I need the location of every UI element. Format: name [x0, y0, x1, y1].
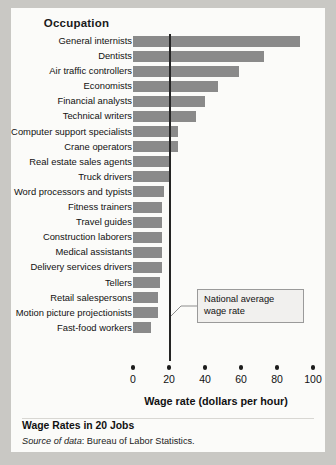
bar-category-label: Technical writers	[7, 109, 132, 123]
bar-category-label: Construction laborers	[7, 230, 132, 244]
bar	[133, 186, 164, 197]
source-prefix: Source of data	[22, 436, 82, 446]
bar	[133, 81, 218, 92]
bar-category-label: Air traffic controllers	[7, 64, 132, 78]
bar	[133, 36, 300, 47]
bar	[133, 202, 162, 213]
bar-row: Dentists	[11, 49, 325, 64]
callout-line-1: National average	[204, 294, 298, 306]
x-axis: 020406080100	[11, 365, 325, 399]
x-tick-label: 0	[113, 373, 153, 385]
x-tick-dot	[275, 365, 280, 370]
bar	[133, 277, 160, 288]
bar-category-label: Fitness trainers	[7, 200, 132, 214]
bar-row: Economists	[11, 79, 325, 94]
bar-category-label: Fast-food workers	[7, 321, 132, 335]
bar-category-label: Truck drivers	[7, 170, 132, 184]
bar-row: Crane operators	[11, 140, 325, 155]
bar-row: Fast-food workers	[11, 321, 325, 336]
bar-row: Real estate sales agents	[11, 155, 325, 170]
bar-category-label: Retail salespersons	[7, 291, 132, 305]
figure-card: Occupation General internistsDentistsAir…	[11, 8, 325, 452]
x-tick-dot	[311, 365, 316, 370]
bar	[133, 307, 158, 318]
bar	[133, 51, 264, 62]
bar-category-label: Dentists	[7, 49, 132, 63]
bar-row: General internists	[11, 34, 325, 49]
x-tick-label: 20	[149, 373, 189, 385]
x-tick-dot	[131, 365, 136, 370]
bar-row: Technical writers	[11, 109, 325, 124]
bar-category-label: Economists	[7, 79, 132, 93]
bar-row: Financial analysts	[11, 94, 325, 109]
x-tick-dot	[167, 365, 172, 370]
bar-category-label: General internists	[7, 34, 132, 48]
callout-line-2: wage rate	[204, 306, 298, 318]
caption-divider	[22, 418, 314, 419]
bar-category-label: Travel guides	[7, 215, 132, 229]
bar-row: Truck drivers	[11, 170, 325, 185]
bar-row: Construction laborers	[11, 230, 325, 245]
bar	[133, 141, 178, 152]
x-tick-label: 80	[257, 373, 297, 385]
bar	[133, 66, 239, 77]
bar-category-label: Financial analysts	[7, 94, 132, 108]
bar-row: Medical assistants	[11, 245, 325, 260]
source-text: : Bureau of Labor Statistics.	[82, 436, 195, 446]
bar-category-label: Motion picture projectionists	[7, 306, 132, 320]
bar	[133, 292, 158, 303]
x-tick-label: 60	[221, 373, 261, 385]
bar	[133, 156, 169, 167]
figure-source-note: Source of data: Bureau of Labor Statisti…	[22, 436, 195, 446]
x-tick-dot	[239, 365, 244, 370]
bar	[133, 247, 162, 258]
figure-caption-title: Wage Rates in 20 Jobs	[22, 420, 134, 431]
bar	[133, 126, 178, 137]
bar-row: Travel guides	[11, 215, 325, 230]
x-tick-label: 40	[185, 373, 225, 385]
bar	[133, 322, 151, 333]
callout-leader-line	[171, 304, 198, 316]
bar-row: Air traffic controllers	[11, 64, 325, 79]
bar-category-label: Real estate sales agents	[7, 155, 132, 169]
bar-category-label: Medical assistants	[7, 245, 132, 259]
screenshot-page: Occupation General internistsDentistsAir…	[0, 0, 336, 465]
bar	[133, 111, 196, 122]
bar-category-label: Tellers	[7, 276, 132, 290]
x-tick-dot	[203, 365, 208, 370]
bar-row: Word processors and typists	[11, 185, 325, 200]
bar	[133, 262, 162, 273]
bar-row: Fitness trainers	[11, 200, 325, 215]
national-average-callout: National average wage rate	[197, 289, 304, 323]
bar-category-label: Word processors and typists	[7, 185, 132, 199]
bar	[133, 217, 162, 228]
occupation-column-header: Occupation	[11, 17, 142, 29]
bar-category-label: Delivery services drivers	[7, 260, 132, 274]
x-tick-label: 100	[293, 373, 333, 385]
bar-category-label: Crane operators	[7, 140, 132, 154]
bar-row: Delivery services drivers	[11, 260, 325, 275]
bar	[133, 232, 162, 243]
bar	[133, 171, 169, 182]
bar-row: Computer support specialists	[11, 125, 325, 140]
x-axis-title: Wage rate (dollars per hour)	[107, 395, 325, 407]
bar-category-label: Computer support specialists	[7, 125, 132, 139]
